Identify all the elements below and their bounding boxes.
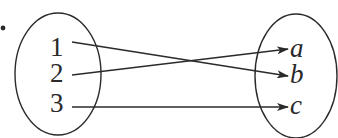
domain-element-3: 3 — [50, 88, 64, 118]
bullet-marker — [1, 26, 6, 31]
codomain-element-c: c — [290, 90, 302, 120]
codomain-element-b: b — [290, 59, 304, 89]
domain-element-2: 2 — [50, 58, 64, 88]
mapping-diagram: 1 2 3 a b c — [0, 0, 338, 138]
